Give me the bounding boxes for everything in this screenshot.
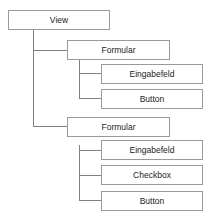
- node-checkbox: Checkbox: [101, 165, 203, 185]
- root-trunk: [33, 29, 34, 127]
- form2-trunk: [79, 145, 80, 201]
- node-eingabefeld-1: Eingabefeld: [101, 64, 203, 84]
- form2-branch-2: [79, 175, 101, 176]
- form2-branch-1: [79, 150, 101, 151]
- form2-branch-3: [79, 200, 101, 201]
- node-formular-2: Formular: [67, 117, 170, 137]
- node-button-2: Button: [101, 191, 203, 211]
- node-view: View: [8, 10, 110, 30]
- branch-form2: [33, 126, 67, 127]
- branch-form1: [33, 50, 67, 51]
- node-eingabefeld-2: Eingabefeld: [101, 140, 203, 160]
- node-formular-1: Formular: [67, 40, 170, 60]
- form1-trunk: [79, 60, 80, 99]
- node-button-1: Button: [101, 89, 203, 109]
- form1-branch-1: [79, 73, 101, 74]
- form1-branch-2: [79, 98, 101, 99]
